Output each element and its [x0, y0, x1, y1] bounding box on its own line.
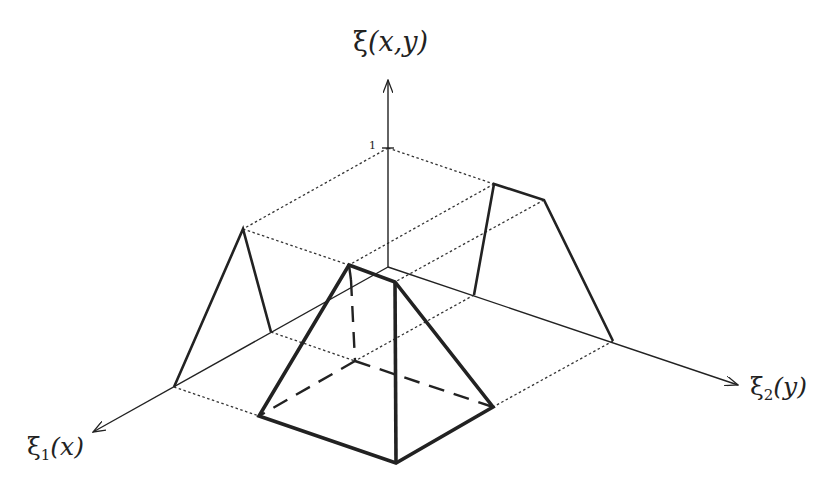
y-axis — [388, 267, 738, 385]
guide-right-bottom-to-base-right — [493, 341, 613, 407]
right-trapezoid-function — [474, 184, 613, 341]
guide-right-top-to-pyramid — [349, 184, 494, 265]
hidden-edge-vertical — [351, 280, 355, 361]
guide-right-top2-to-pyramid — [395, 200, 544, 282]
pyramid-visible-edges — [259, 265, 493, 463]
hidden-edge-right — [355, 361, 493, 407]
axes — [93, 80, 738, 432]
pyramid-hidden-edges — [259, 280, 493, 416]
tick-one-label: 1 — [369, 139, 376, 152]
guide-tick-to-left-apex — [243, 148, 388, 229]
z-axis-label: ξ(x,y) — [353, 26, 428, 57]
guide-left-apex-to-pyramid — [243, 229, 349, 265]
left-hat-function — [174, 229, 271, 387]
pyramid-front-edge — [395, 282, 396, 463]
pyramid-outline — [259, 265, 493, 463]
y-axis-label: ξ2(y) — [750, 372, 807, 404]
guide-left-bottom-to-base-left — [174, 387, 259, 416]
pyramid-basis-function-diagram — [0, 0, 831, 496]
x-axis-label: ξ1(x) — [27, 432, 84, 464]
guide-left-lower-to-base-back — [271, 332, 355, 361]
x-axis — [93, 267, 388, 432]
guide-tick-to-right-top — [388, 148, 494, 184]
